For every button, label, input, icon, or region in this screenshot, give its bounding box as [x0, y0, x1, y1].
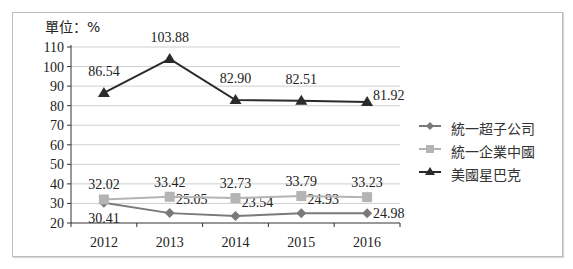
data-label: 86.54 [88, 64, 120, 79]
diamond-marker [362, 208, 372, 218]
y-tick-label: 70 [50, 118, 64, 133]
data-label: 24.98 [373, 206, 405, 221]
triangle-marker-icon [418, 162, 444, 182]
y-tick-label: 100 [43, 60, 64, 75]
y-tick-label: 30 [50, 196, 64, 211]
legend-label: 統一企業中國 [451, 141, 535, 161]
y-tick-label: 110 [44, 40, 64, 55]
y-tick-label: 90 [50, 79, 64, 94]
x-tick-label: 2015 [287, 235, 315, 250]
data-label: 30.41 [88, 211, 120, 226]
x-tick-label: 2016 [353, 235, 381, 250]
diamond-marker [165, 208, 175, 218]
legend-item-series-2: 美國星巴克 [418, 162, 558, 185]
x-tick-label: 2014 [222, 235, 250, 250]
legend-label: 美國星巴克 [451, 164, 521, 184]
data-label: 82.90 [220, 71, 252, 86]
x-tick-label: 2012 [90, 235, 118, 250]
square-marker [165, 192, 175, 202]
diamond-marker [231, 211, 241, 221]
y-tick-label: 20 [50, 216, 64, 231]
square-marker [99, 194, 109, 204]
data-label: 82.51 [286, 72, 318, 87]
y-tick-label: 50 [50, 157, 64, 172]
y-tick-label: 60 [50, 138, 64, 153]
data-label: 81.92 [373, 88, 405, 103]
diamond-marker [296, 208, 306, 218]
data-label: 32.02 [88, 177, 120, 192]
square-marker [362, 192, 372, 202]
y-tick-label: 80 [50, 99, 64, 114]
data-label: 24.93 [308, 192, 340, 207]
triangle-marker [164, 53, 176, 63]
legend: 統一超子公司 統一企業中國 美國星巴克 [418, 116, 558, 185]
square-marker [231, 193, 241, 203]
data-label: 32.73 [220, 176, 252, 191]
data-label: 33.23 [351, 175, 383, 190]
data-label: 25.05 [176, 192, 208, 207]
triangle-marker [98, 87, 110, 97]
data-label: 33.79 [286, 174, 318, 189]
triangle-marker [230, 94, 242, 104]
square-marker-icon [418, 139, 444, 159]
legend-label: 統一超子公司 [451, 118, 535, 138]
data-label: 33.42 [154, 175, 186, 190]
x-tick-label: 2013 [156, 235, 184, 250]
data-label: 103.88 [150, 30, 189, 45]
legend-item-series-0: 統一超子公司 [418, 116, 558, 139]
diamond-marker-icon [418, 116, 444, 136]
y-tick-label: 40 [50, 177, 64, 192]
legend-item-series-1: 統一企業中國 [418, 139, 558, 162]
square-marker [296, 191, 306, 201]
